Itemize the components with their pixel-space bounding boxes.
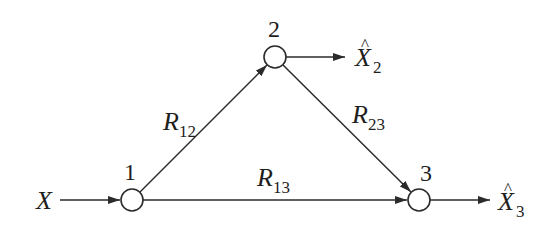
output-x-hat-2: X ^ 2 (354, 35, 382, 77)
node-1-label: 1 (124, 159, 136, 185)
node-3-label: 3 (420, 160, 432, 186)
node-1 (121, 189, 143, 211)
node-2 (264, 46, 286, 68)
output-x-hat-3: X ^ 3 (497, 179, 525, 221)
rate-r23-subscript: 23 (368, 115, 385, 134)
output-3-subscript: 3 (516, 202, 525, 221)
rate-label-r13: R 13 (256, 163, 290, 197)
output-3-hat: ^ (504, 179, 512, 198)
node-2-label: 2 (268, 16, 280, 42)
rate-r12-subscript: 12 (179, 122, 196, 141)
edge-2-to-3 (283, 65, 411, 192)
rate-r23-symbol: R (351, 100, 368, 129)
rate-r13-symbol: R (256, 163, 273, 192)
rate-label-r12: R 12 (162, 107, 196, 141)
rate-r12-symbol: R (162, 107, 179, 136)
edge-1-to-2 (140, 65, 267, 192)
network-diagram: 1 2 3 X X ^ 2 X ^ 3 R 12 R 23 R 13 (0, 0, 547, 231)
output-2-subscript: 2 (373, 58, 382, 77)
node-3 (408, 189, 430, 211)
input-symbol-x: X (35, 186, 53, 215)
output-2-hat: ^ (361, 35, 369, 54)
rate-r13-subscript: 13 (273, 178, 290, 197)
rate-label-r23: R 23 (351, 100, 385, 134)
